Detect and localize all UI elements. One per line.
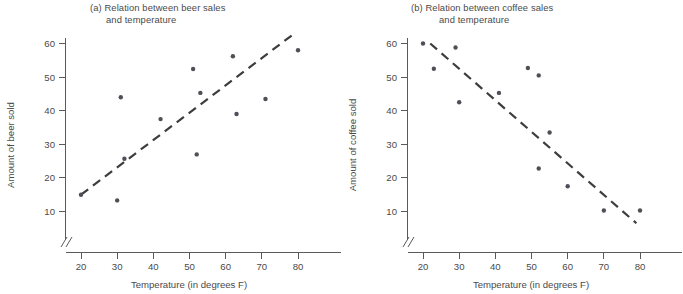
data-point: [263, 97, 267, 101]
panel-a-datapoints: [79, 48, 300, 203]
panel-b-ytick-40: 40: [386, 105, 397, 116]
data-point: [79, 193, 83, 197]
data-point: [421, 41, 425, 45]
panel-a-axes: [61, 38, 341, 253]
panel-b-y-axis-label: Amount of coffee sold: [347, 99, 358, 192]
panel-b-title: (b) Relation between coffee sales and te…: [411, 2, 553, 25]
panel-a-title-line2: and temperature: [106, 14, 176, 25]
panel-b-xtick-80: 80: [635, 261, 646, 272]
data-point: [638, 208, 642, 212]
panel-a-xtick-80: 80: [293, 261, 304, 272]
data-point: [198, 91, 202, 95]
data-point: [234, 112, 238, 116]
panel-a-ytick-50: 50: [44, 72, 55, 83]
panel-a-y-axis: 10 20 30 40 50 60: [44, 38, 65, 217]
panel-b-title-line1: (b) Relation between coffee sales: [411, 2, 553, 13]
figure-container: (a) Relation between beer sales and temp…: [0, 0, 683, 294]
chart-panel-b: (b) Relation between coffee sales and te…: [341, 0, 682, 294]
data-point: [547, 130, 551, 134]
data-point: [158, 117, 162, 121]
panel-a-xtick-20: 20: [76, 261, 87, 272]
panel-b-ytick-20: 20: [386, 172, 397, 183]
data-point: [195, 152, 199, 156]
panel-b-axes: [403, 38, 682, 253]
panel-a-xtick-60: 60: [220, 261, 231, 272]
data-point: [432, 67, 436, 71]
panel-a-xtick-30: 30: [112, 261, 123, 272]
panel-b-ytick-10: 10: [386, 206, 397, 217]
panel-a-xtick-70: 70: [256, 261, 267, 272]
panel-b-xtick-20: 20: [418, 261, 429, 272]
panel-b-ytick-50: 50: [386, 72, 397, 83]
data-point: [602, 208, 606, 212]
data-point: [122, 157, 126, 161]
panel-a-x-axis-label: Temperature (in degrees F): [131, 279, 247, 290]
data-point: [537, 73, 541, 77]
data-point: [191, 67, 195, 71]
panel-b-x-axis-label: Temperature (in degrees F): [473, 279, 589, 290]
panel-b-ytick-60: 60: [386, 38, 397, 49]
panel-a-xtick-40: 40: [148, 261, 159, 272]
data-point: [537, 166, 541, 170]
data-point: [457, 100, 461, 104]
panel-a-y-axis-label: Amount of beer sold: [5, 102, 16, 188]
panel-b-xtick-40: 40: [490, 261, 501, 272]
data-point: [296, 48, 300, 52]
panel-a-ytick-20: 20: [44, 172, 55, 183]
panel-a-x-axis: 20 30 40 50 60 70 80: [76, 253, 304, 273]
panel-b-xtick-70: 70: [598, 261, 609, 272]
panel-a-title: (a) Relation between beer sales and temp…: [90, 2, 226, 25]
panel-b-xtick-30: 30: [454, 261, 465, 272]
data-point: [497, 91, 501, 95]
panel-a-ytick-10: 10: [44, 206, 55, 217]
panel-b-datapoints: [421, 41, 642, 212]
data-point: [526, 66, 530, 70]
panel-b-ytick-30: 30: [386, 139, 397, 150]
panel-b-title-line2: and temperature: [439, 14, 509, 25]
data-point: [565, 184, 569, 188]
panel-a-ytick-30: 30: [44, 139, 55, 150]
panel-b-trendline: [430, 44, 636, 224]
data-point: [231, 54, 235, 58]
panel-b-xtick-60: 60: [562, 261, 573, 272]
panel-a-trendline: [81, 33, 294, 194]
data-point: [453, 45, 457, 49]
chart-panel-a: (a) Relation between beer sales and temp…: [0, 0, 341, 294]
panel-a-ytick-60: 60: [44, 38, 55, 49]
panel-a-ytick-40: 40: [44, 105, 55, 116]
panel-b-x-axis: 20 30 40 50 60 70 80: [418, 253, 646, 273]
panel-b-y-axis: 10 20 30 40 50 60: [386, 38, 407, 217]
panel-a-title-line1: (a) Relation between beer sales: [90, 2, 226, 13]
panel-a-xtick-50: 50: [184, 261, 195, 272]
panel-b-xtick-50: 50: [526, 261, 537, 272]
data-point: [115, 198, 119, 202]
data-point: [119, 95, 123, 99]
